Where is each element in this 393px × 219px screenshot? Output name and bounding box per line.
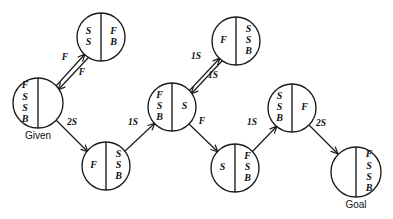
bank-letter: F: [219, 34, 227, 45]
bank-letter: S: [366, 171, 372, 182]
bank-letter: B: [243, 172, 251, 183]
edge-label: 2S: [315, 118, 326, 128]
bank-letter: S: [246, 34, 252, 45]
edge-upperright-to-goal: 2S: [309, 118, 338, 154]
bank-letter: B: [109, 36, 117, 47]
bank-letter: B: [114, 170, 122, 181]
node-upper-right[interactable]: SSBF: [268, 84, 316, 132]
edge-label: F: [198, 116, 206, 126]
edge-label: F: [61, 52, 69, 62]
bank-letter: F: [300, 101, 308, 112]
edge-label: 1S: [128, 117, 138, 127]
node-caption: Given: [25, 130, 51, 141]
edge-line: [309, 125, 338, 154]
edge-label: 1S: [191, 51, 201, 61]
bank-letter: F: [21, 79, 29, 90]
edge-label: 1S: [208, 70, 218, 80]
node-given[interactable]: FSSBGiven: [13, 78, 63, 141]
node-bottom-left[interactable]: FSSB: [82, 142, 130, 190]
node-bottom-right[interactable]: SFSB: [211, 144, 259, 192]
edge-line: [189, 124, 218, 152]
bank-letter: S: [246, 23, 252, 34]
edge-label: F: [78, 67, 86, 77]
edge-line: [124, 123, 155, 152]
bank-letter: F: [243, 150, 251, 161]
bank-letter: S: [277, 90, 283, 101]
node-caption: Goal: [345, 199, 366, 210]
bank-letter: B: [244, 45, 252, 56]
bank-letter: S: [116, 159, 122, 170]
edge-label: 1S: [247, 117, 257, 127]
edge-line: [252, 126, 277, 152]
bank-letter: S: [22, 102, 28, 113]
bank-letter: S: [182, 100, 188, 111]
bank-letter: B: [155, 111, 163, 122]
edge-label: 2S: [66, 117, 77, 127]
bank-letter: S: [22, 91, 28, 102]
node-top-left[interactable]: SSFB: [77, 13, 125, 61]
bank-letter: S: [220, 161, 226, 172]
edge-middle-to-bottomright: F: [189, 116, 218, 152]
node-top-right[interactable]: FSSB: [212, 17, 260, 65]
bank-letter: F: [89, 159, 97, 170]
bank-letter: S: [245, 161, 251, 172]
state-space-diagram: FF2S1S1S1SF1S2SFSSBGivenSSFBFSSBFSBSFSSB…: [0, 0, 393, 219]
edge-bottomleft-to-middle: 1S: [124, 117, 155, 152]
diagram-canvas: FF2S1S1S1SF1S2SFSSBGivenSSFBFSSBFSBSFSSB…: [0, 0, 393, 219]
bank-letter: F: [109, 25, 117, 36]
bank-letter: S: [277, 101, 283, 112]
edge-topright-to-middle: 1S: [191, 61, 222, 94]
bank-letter: B: [365, 182, 373, 193]
bank-letter: S: [86, 36, 92, 47]
bank-letter: F: [365, 148, 373, 159]
edge-given-to-bottomleft: 2S: [56, 117, 88, 152]
bank-letter: F: [155, 89, 163, 100]
edge-topleft-to-given: F: [58, 58, 88, 90]
bank-letter: S: [157, 100, 163, 111]
node-goal[interactable]: FSSBGoal: [331, 147, 381, 210]
bank-letter: S: [86, 25, 92, 36]
bank-letter: B: [21, 113, 29, 124]
bank-letter: S: [366, 160, 372, 171]
bank-letter: S: [116, 148, 122, 159]
node-middle[interactable]: FSBS: [148, 83, 196, 131]
bank-letter: B: [275, 112, 283, 123]
